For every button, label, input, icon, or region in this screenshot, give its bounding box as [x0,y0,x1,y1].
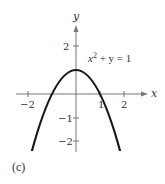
x-axis-arrow-icon [141,92,148,97]
y-axis-label: y [72,10,80,23]
figure-caption: (c) [12,160,25,175]
y-axis-arrow-icon [74,25,79,32]
x-tick-label: 2 [121,99,127,110]
y-tick-label: −1 [58,113,73,124]
parabola-chart: x y −2 1 2 2 −1 −2 x2 + y = 1 [0,0,165,184]
y-tick-label: 2 [63,41,69,52]
x-axis-label: x [151,87,158,100]
y-tick-label: −2 [58,136,73,147]
equation-label: x2 + y = 1 [87,51,131,64]
x-tick-label: −2 [20,99,35,110]
